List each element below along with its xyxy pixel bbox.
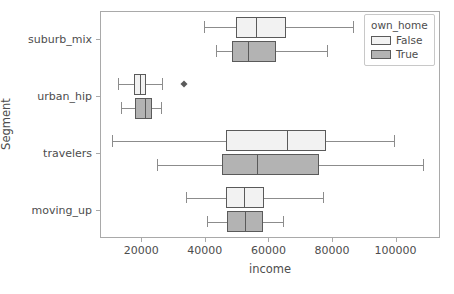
- whisker-line: [207, 222, 226, 223]
- whisker-cap: [327, 45, 328, 57]
- box-suburb_mix-true: [232, 41, 276, 62]
- legend-entry-true[interactable]: True: [371, 48, 428, 60]
- whisker-cap: [394, 135, 395, 147]
- whisker-cap: [216, 45, 217, 57]
- x-tick: [205, 238, 206, 242]
- whisker-cap: [186, 192, 187, 204]
- whisker-line: [157, 165, 222, 166]
- legend-entry-false[interactable]: False: [371, 34, 428, 46]
- legend-title: own_home: [371, 19, 428, 31]
- whisker-cap: [423, 159, 424, 171]
- y-axis-title: Segment: [0, 98, 13, 150]
- whisker-line: [186, 198, 226, 199]
- median-line: [145, 98, 146, 119]
- whisker-line: [263, 222, 283, 223]
- whisker-cap: [121, 102, 122, 114]
- x-tick: [268, 238, 269, 242]
- whisker-line: [276, 51, 327, 52]
- x-tick-label: 100000: [375, 244, 417, 257]
- whisker-line: [204, 27, 236, 28]
- median-line: [257, 154, 258, 175]
- whisker-cap: [204, 21, 205, 33]
- whisker-cap: [323, 192, 324, 204]
- legend-label-false: False: [396, 34, 422, 46]
- whisker-line: [326, 141, 394, 142]
- median-line: [245, 211, 246, 232]
- box-travelers-true: [222, 154, 319, 175]
- median-line: [287, 130, 288, 151]
- x-tick-label: 60000: [251, 244, 286, 257]
- box-urban_hip-true: [135, 98, 152, 119]
- boxplot-chart: 20000400006000080000100000suburb_mixurba…: [0, 0, 454, 294]
- whisker-line: [146, 84, 162, 85]
- whisker-cap: [162, 78, 163, 90]
- y-tick: [96, 96, 100, 97]
- legend-label-true: True: [396, 48, 418, 60]
- y-tick: [96, 39, 100, 40]
- whisker-cap: [112, 135, 113, 147]
- legend-swatch-false-icon: [371, 36, 391, 45]
- whisker-cap: [161, 102, 162, 114]
- x-tick: [141, 238, 142, 242]
- legend: own_home False True: [364, 14, 435, 66]
- y-tick: [96, 153, 100, 154]
- whisker-line: [216, 51, 232, 52]
- whisker-cap: [283, 216, 284, 228]
- y-tick-label-suburb_mix: suburb_mix: [0, 33, 92, 46]
- median-line: [140, 74, 141, 95]
- whisker-line: [118, 84, 134, 85]
- y-tick: [96, 210, 100, 211]
- whisker-cap: [353, 21, 354, 33]
- x-tick: [396, 238, 397, 242]
- legend-swatch-true-icon: [371, 50, 391, 59]
- median-line: [244, 187, 245, 208]
- median-line: [248, 41, 249, 62]
- whisker-cap: [157, 159, 158, 171]
- x-axis-title: income: [249, 262, 291, 276]
- x-tick-label: 40000: [187, 244, 222, 257]
- whisker-cap: [207, 216, 208, 228]
- box-suburb_mix-false: [236, 17, 286, 38]
- whisker-line: [264, 198, 324, 199]
- whisker-cap: [118, 78, 119, 90]
- y-tick-label-travelers: travelers: [0, 146, 92, 159]
- whisker-line: [286, 27, 353, 28]
- y-tick-label-urban_hip: urban_hip: [0, 90, 92, 103]
- whisker-line: [112, 141, 225, 142]
- y-tick-label-moving_up: moving_up: [0, 203, 92, 216]
- x-tick: [332, 238, 333, 242]
- whisker-line: [121, 108, 134, 109]
- median-line: [256, 17, 257, 38]
- x-tick-label: 20000: [124, 244, 159, 257]
- whisker-line: [152, 108, 161, 109]
- box-travelers-false: [226, 130, 326, 151]
- x-tick-label: 80000: [314, 244, 349, 257]
- whisker-line: [319, 165, 422, 166]
